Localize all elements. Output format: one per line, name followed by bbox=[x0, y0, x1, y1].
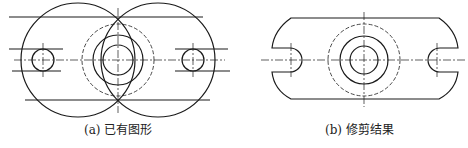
figure-a-existing-shapes bbox=[9, 3, 230, 117]
caption-b: (b) 修剪结果 bbox=[325, 120, 394, 137]
caption-a: (a) 已有图形 bbox=[84, 120, 152, 137]
drawing-canvas bbox=[0, 0, 468, 148]
figure-b-trim-result bbox=[261, 12, 467, 107]
